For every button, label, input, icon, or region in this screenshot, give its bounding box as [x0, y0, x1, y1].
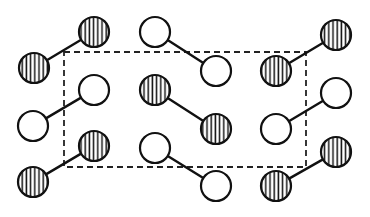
open-atom-icon: [140, 133, 170, 163]
lattice-diagram: [0, 0, 370, 217]
hatched-atom-icon: [79, 17, 109, 47]
hatched-atom-icon: [201, 114, 231, 144]
lattice-canvas: [0, 0, 370, 217]
bond-g: [46, 154, 81, 175]
open-atom-icon: [201, 171, 231, 201]
hatched-atom-icon: [321, 20, 351, 50]
bond-a: [47, 40, 81, 61]
open-atom-icon: [140, 17, 170, 47]
bond-e: [168, 98, 204, 121]
hatched-atom-icon: [79, 131, 109, 161]
open-atom-icon: [79, 75, 109, 105]
open-atom-icon: [18, 111, 48, 141]
hatched-atom-icon: [18, 167, 48, 197]
open-atom-icon: [201, 56, 231, 86]
hatched-atom-icon: [19, 53, 49, 83]
hatched-atom-icon: [261, 56, 291, 86]
hatched-atom-icon: [261, 171, 291, 201]
open-atom-icon: [321, 78, 351, 108]
hatched-atom-icon: [140, 75, 170, 105]
open-atom-icon: [261, 114, 291, 144]
hatched-atom-icon: [321, 137, 351, 167]
